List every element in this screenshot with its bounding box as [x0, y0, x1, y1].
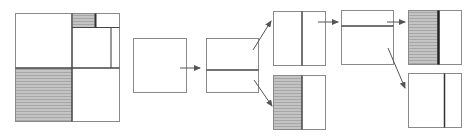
node-level4-top — [409, 11, 462, 65]
node-level4-bottom — [409, 74, 462, 128]
node-level2-bottom — [274, 76, 326, 130]
arrow-icon — [388, 48, 405, 88]
partition-diagram — [0, 0, 476, 136]
node-level1 — [207, 39, 259, 93]
node-root — [134, 39, 187, 93]
node-level3 — [342, 11, 394, 65]
overview-partition — [16, 14, 120, 122]
arrow-icon — [253, 21, 271, 50]
shaded-region — [16, 68, 72, 121]
shaded-region-small — [73, 14, 95, 27]
node-level2-top — [274, 12, 326, 66]
